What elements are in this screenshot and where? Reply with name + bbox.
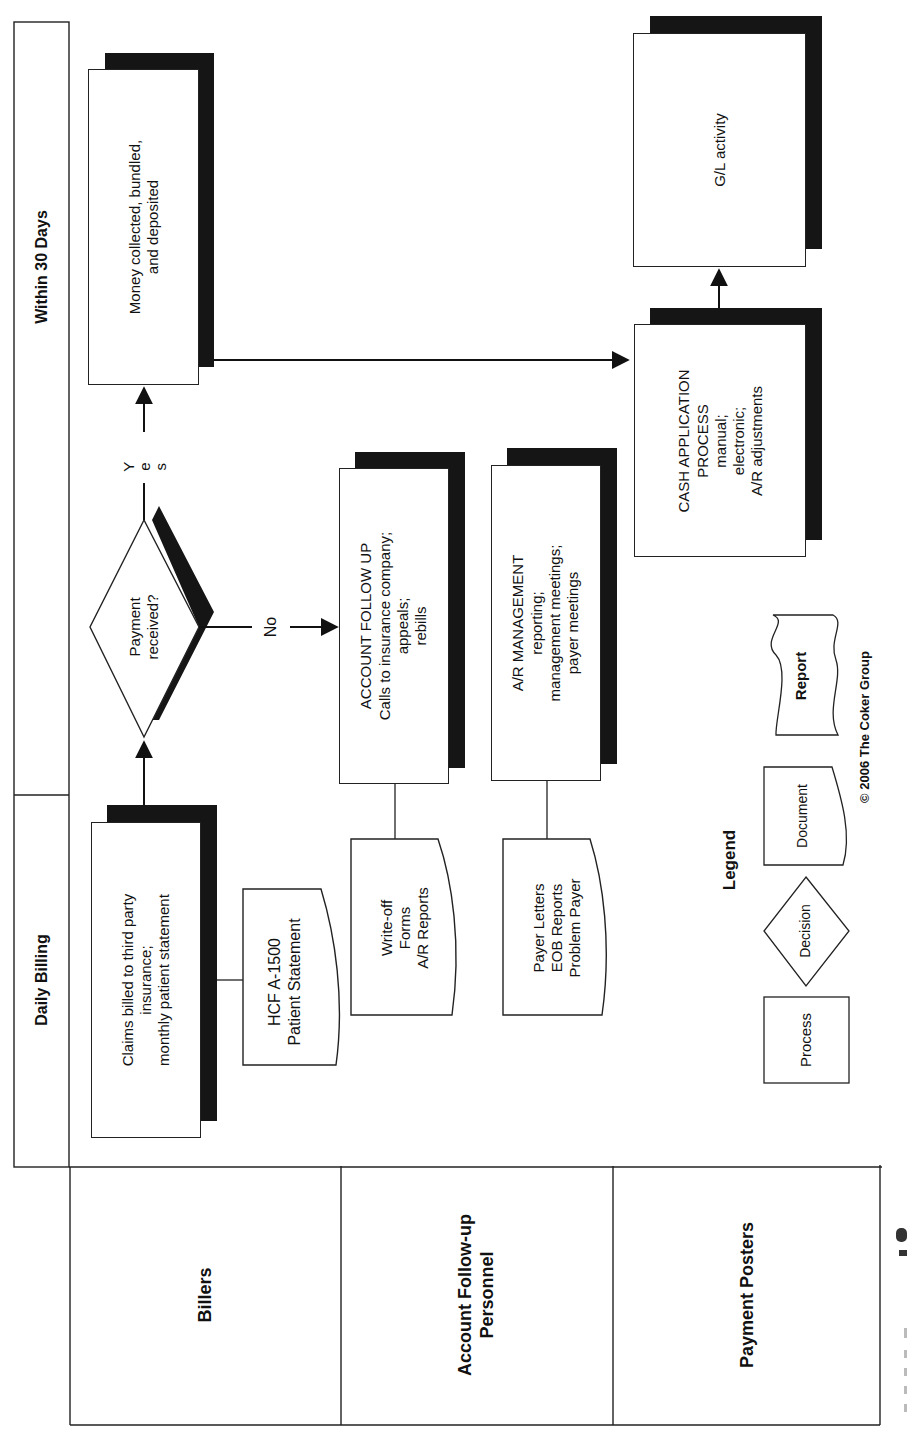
figure-caption-fragment xyxy=(896,1228,907,1412)
edge-label-no: No xyxy=(256,612,286,642)
node-cash-application-text: CASH APPLICATION PROCESS manual; electro… xyxy=(635,325,807,558)
legend-item-process: Process xyxy=(791,1000,821,1080)
node-ar-management-text: A/R MANAGEMENT reporting; management mee… xyxy=(492,465,600,781)
phase-label-within-30-days: Within 30 Days xyxy=(22,85,62,450)
legend-item-decision: Decision xyxy=(791,891,821,971)
lane-label-billers: Billers xyxy=(186,1165,226,1425)
legend-item-document: Document xyxy=(788,771,818,861)
node-money-collected-text: Money collected, bundled, and deposited xyxy=(90,69,198,385)
node-claims-billed-text: Claims billed to third party insurance; … xyxy=(92,822,200,1138)
node-cash-application[interactable]: CASH APPLICATION PROCESS manual; electro… xyxy=(634,324,806,557)
node-gl-activity-text: G/L activity xyxy=(634,33,806,267)
phase-label-daily-billing: Daily Billing xyxy=(22,798,62,1163)
copyright-notice: © 2006 The Coker Group xyxy=(853,627,877,827)
node-decision-payment-received[interactable]: Payment received? xyxy=(115,577,173,677)
node-hcfa-patient-statement[interactable]: HCF A-1500 Patient Statement xyxy=(255,902,315,1062)
edge-label-yes: Y e s xyxy=(121,458,168,476)
lane-label-payment-posters: Payment Posters xyxy=(728,1165,768,1425)
node-payer-letters[interactable]: Payer Letters EOB Reports Problem Payer xyxy=(524,853,590,1003)
node-money-collected[interactable]: Money collected, bundled, and deposited xyxy=(88,69,199,385)
node-claims-billed[interactable]: Claims billed to third party insurance; … xyxy=(91,822,201,1138)
node-gl-activity[interactable]: G/L activity xyxy=(633,33,806,267)
legend-item-report: Report xyxy=(786,641,816,711)
node-account-follow-up[interactable]: ACCOUNT FOLLOW UP Calls to insurance com… xyxy=(339,468,449,784)
node-account-follow-up-text: ACCOUNT FOLLOW UP Calls to insurance com… xyxy=(340,468,448,784)
node-write-off-forms[interactable]: Write-off Forms A/R Reports xyxy=(372,853,438,1003)
legend-title: Legend xyxy=(715,820,745,900)
lane-label-account-followup: Account Follow-up Personnel xyxy=(447,1165,507,1425)
node-ar-management[interactable]: A/R MANAGEMENT reporting; management mee… xyxy=(491,465,601,781)
